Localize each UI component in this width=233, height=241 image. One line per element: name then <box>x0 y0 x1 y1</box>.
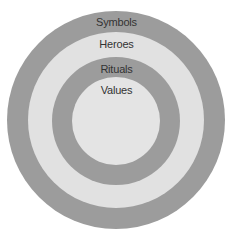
label-symbols: Symbols <box>0 16 233 28</box>
label-values: Values <box>0 84 233 96</box>
onion-diagram: Symbols Heroes Rituals Values <box>0 0 233 241</box>
label-rituals: Rituals <box>0 63 233 75</box>
label-heroes: Heroes <box>0 38 233 50</box>
